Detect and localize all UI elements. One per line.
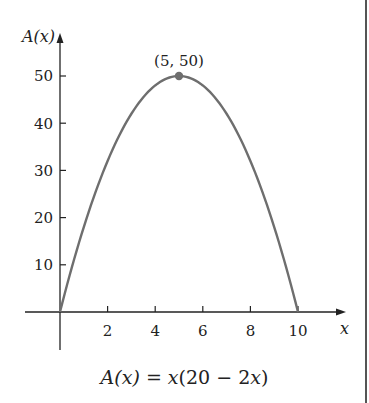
x-axis-arrow-icon bbox=[336, 309, 346, 316]
vertex-point bbox=[175, 72, 183, 80]
chart-svg: 2 4 6 8 10 x 10 20 30 40 50 A(x) (5, 50) bbox=[0, 0, 369, 403]
x-axis-label: x bbox=[340, 319, 349, 338]
x-tick-label: 8 bbox=[246, 322, 256, 340]
y-tick-label: 10 bbox=[34, 256, 53, 274]
x-ticks bbox=[108, 306, 298, 312]
right-border bbox=[365, 0, 367, 403]
x-tick-labels: 2 4 6 8 10 bbox=[103, 322, 308, 340]
x-tick-label: 6 bbox=[198, 322, 208, 340]
caption-lhs: A(x) bbox=[101, 366, 140, 388]
y-tick-label: 40 bbox=[34, 115, 53, 133]
caption-x2: x bbox=[250, 366, 261, 388]
x-tick-label: 4 bbox=[150, 322, 160, 340]
y-axis-label: A(x) bbox=[20, 27, 55, 46]
caption-paren: (20 − 2 bbox=[179, 366, 251, 388]
y-ticks bbox=[60, 76, 66, 265]
x-tick-label: 10 bbox=[288, 322, 307, 340]
x-tick-label: 2 bbox=[103, 322, 113, 340]
y-tick-label: 50 bbox=[34, 67, 53, 85]
curve-line bbox=[60, 76, 298, 312]
y-axis-arrow-icon bbox=[57, 33, 64, 43]
y-tick-label: 30 bbox=[34, 162, 53, 180]
caption-equals: = bbox=[140, 366, 168, 388]
caption-x: x bbox=[168, 366, 179, 388]
function-caption: A(x) = x(20 − 2x) bbox=[0, 366, 369, 388]
caption-close: ) bbox=[261, 366, 268, 388]
y-tick-labels: 10 20 30 40 50 bbox=[34, 67, 53, 274]
vertex-label: (5, 50) bbox=[154, 52, 204, 70]
y-tick-label: 20 bbox=[34, 209, 53, 227]
